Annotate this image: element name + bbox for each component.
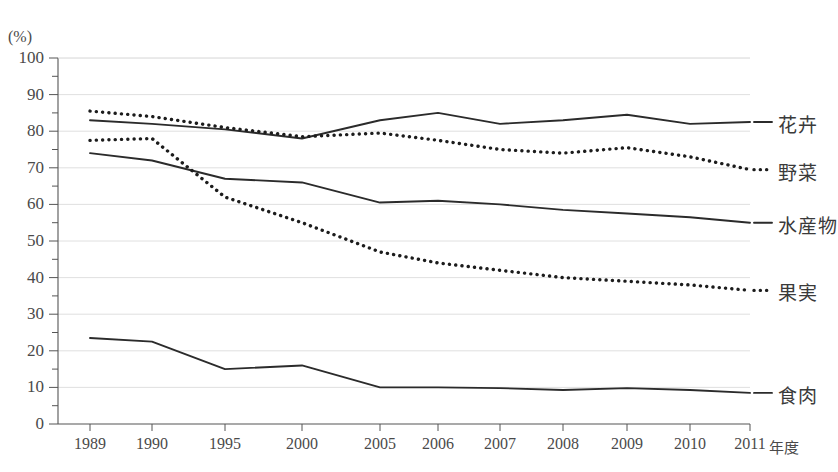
series-line-1 (90, 111, 750, 170)
y-tick-label: 40 (0, 269, 44, 286)
x-tick-label: 2006 (408, 436, 468, 452)
series-line-4 (90, 338, 750, 393)
legend-label-水産物: 水産物 (778, 211, 838, 238)
x-tick-label: 2009 (597, 436, 657, 452)
x-tick-label: 2008 (533, 436, 593, 452)
y-tick-label: 80 (0, 122, 44, 139)
legend-label-果実: 果実 (778, 278, 818, 305)
y-tick-label: 20 (0, 342, 44, 359)
x-tick-label: 2010 (660, 436, 720, 452)
x-axis-unit-label: 年度 (769, 436, 799, 457)
y-tick-label: 30 (0, 305, 44, 322)
legend-label-花卉: 花卉 (778, 110, 818, 137)
legend-label-食肉: 食肉 (778, 381, 818, 408)
y-tick-label: 10 (0, 378, 44, 395)
x-tick-label: 2005 (350, 436, 410, 452)
y-tick-label: 100 (0, 49, 44, 66)
y-tick-label: 70 (0, 159, 44, 176)
y-tick-label: 50 (0, 232, 44, 249)
x-tick-label: 1989 (60, 436, 120, 452)
x-tick-label: 2007 (470, 436, 530, 452)
x-tick-label: 2000 (272, 436, 332, 452)
x-tick-label: 1990 (122, 436, 182, 452)
gridlines-group (58, 58, 750, 387)
series-line-0 (90, 113, 750, 139)
series-line-2 (90, 153, 750, 223)
legend-marks-group (754, 122, 772, 393)
x-tick-label: 1995 (195, 436, 255, 452)
tick-marks-group (49, 58, 750, 431)
y-tick-label: 90 (0, 86, 44, 103)
y-tick-label: 0 (0, 415, 44, 432)
legend-label-野菜: 野菜 (778, 158, 818, 185)
y-tick-label: 60 (0, 195, 44, 212)
